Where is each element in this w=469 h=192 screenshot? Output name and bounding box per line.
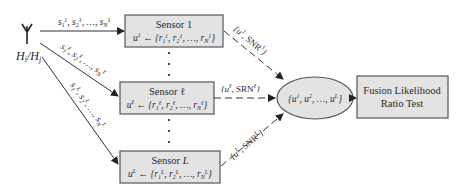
sensor-1-box: Sensor 1 u1 ← {r11, r21, …, rN1} bbox=[125, 15, 223, 47]
fusion-test-box: Fusion Likelihood Ratio Test bbox=[357, 76, 448, 118]
sensor-L-formula: uL ← {r1L, r2L, …, rNL} bbox=[128, 168, 212, 180]
fusion-set-node: {u1, u2, …, uL} bbox=[277, 77, 353, 119]
fusion-test-line2: Ratio Test bbox=[381, 98, 424, 109]
ellipsis-dots-upper bbox=[168, 52, 170, 76]
sensor-L-box: Sensor L uL ← {r1L, r2L, …, rNL} bbox=[120, 151, 220, 183]
output-label-sensor-L: {uL, SNRL} bbox=[227, 127, 265, 162]
sensor-l-box: Sensor ℓ uℓ ← {r1ℓ, r2ℓ, …, rNℓ} bbox=[120, 82, 214, 114]
sensor-L-title: Sensor L bbox=[151, 155, 188, 166]
ellipsis-dots-lower bbox=[168, 119, 170, 143]
fusion-test-line1: Fusion Likelihood bbox=[363, 85, 441, 96]
fusion-set-label: {u1, u2, …, uL} bbox=[288, 93, 342, 104]
input-arrow-sensor-L bbox=[42, 57, 118, 164]
input-label-sensor-1: s11, s21, …, sN1 bbox=[58, 17, 110, 28]
hypothesis-label: Hi/Hj bbox=[15, 49, 42, 64]
fusion-diagram: Hi/Hj s11, s21, …, sN1 s1ℓ, s2ℓ, …, sNℓ … bbox=[0, 0, 469, 192]
sensor-l-formula: uℓ ← {r1ℓ, r2ℓ, …, rNℓ} bbox=[127, 99, 208, 111]
sensor-1-formula: u1 ← {r11, r21, …, rN1} bbox=[133, 32, 215, 44]
antenna-icon bbox=[22, 24, 32, 44]
output-label-sensor-l: {uℓ, SRNℓ} bbox=[221, 83, 260, 94]
input-label-sensor-L: s1L, s2L, …, sNL bbox=[68, 80, 109, 131]
sensor-l-title: Sensor ℓ bbox=[149, 86, 185, 97]
sensor-1-title: Sensor 1 bbox=[156, 19, 192, 30]
